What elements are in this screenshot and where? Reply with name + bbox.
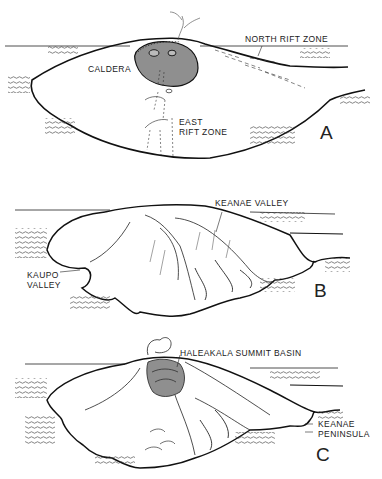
panel-letter-a: A	[320, 122, 333, 144]
label-keanae-valley: KEANAE VALLEY	[215, 198, 289, 208]
panel-letter-c: C	[316, 444, 330, 466]
panel-b-drawing	[15, 205, 350, 316]
label-kaupo-line1: KAUPO	[27, 270, 59, 280]
label-kaupo-line2: VALLEY	[27, 280, 61, 290]
diagram-canvas	[0, 0, 382, 479]
label-keanae-peninsula-line2: PENINSULA	[318, 429, 370, 439]
label-north-rift-zone: NORTH RIFT ZONE	[245, 34, 328, 44]
panel-letter-b: B	[314, 280, 327, 302]
label-haleakala-summit-basin: HALEAKALA SUMMIT BASIN	[180, 348, 302, 358]
label-caldera: CALDERA	[88, 64, 131, 74]
label-keanae-peninsula-line1: KEANAE	[318, 419, 355, 429]
label-east-rift-line2: RIFT ZONE	[179, 127, 227, 137]
label-east-rift-line1: EAST	[179, 117, 203, 127]
